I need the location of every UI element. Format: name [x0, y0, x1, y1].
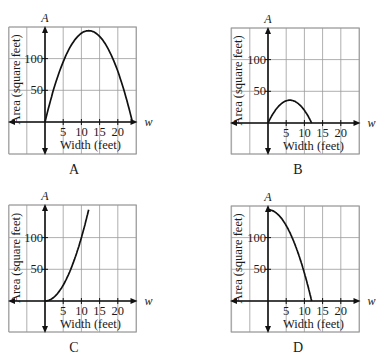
x-variable-label: w — [145, 294, 153, 308]
x-tick-label: 20 — [112, 304, 125, 318]
chart-a: 510152050100AwWidth (feet)Area (square f… — [0, 0, 188, 178]
y-axis-title: Area (square feet) — [231, 213, 245, 303]
y-variable-label: A — [263, 12, 272, 26]
x-tick-label: 5 — [283, 126, 289, 140]
x-tick-label: 15 — [316, 304, 329, 318]
y-tick-label: 50 — [254, 262, 267, 276]
caption-c: C — [54, 340, 94, 355]
y-axis-title: Area (square feet) — [9, 34, 23, 124]
x-tick-label: 5 — [283, 304, 289, 318]
chart-d: 510152050100AwWidth (feet)Area (square f… — [188, 178, 376, 355]
data-curve — [268, 210, 312, 301]
y-variable-label: A — [40, 11, 49, 25]
caption-a: A — [54, 162, 94, 178]
x-tick-label: 20 — [112, 125, 125, 139]
x-variable-label: w — [145, 115, 153, 129]
chart-b: 510152050100AwWidth (feet)Area (square f… — [188, 0, 376, 178]
chart-panel-b: 510152050100AwWidth (feet)Area (square f… — [188, 0, 376, 178]
caption-b: B — [278, 162, 318, 178]
data-curve — [45, 31, 132, 122]
x-tick-label: 15 — [316, 126, 329, 140]
y-axis-title: Area (square feet) — [9, 213, 23, 303]
x-tick-label: 10 — [75, 304, 88, 318]
x-axis-title: Width (feet) — [283, 139, 344, 153]
x-tick-label: 20 — [335, 304, 348, 318]
x-variable-label: w — [368, 116, 376, 130]
y-tick-label: 50 — [254, 84, 267, 98]
chart-panel-d: 510152050100AwWidth (feet)Area (square f… — [188, 178, 376, 355]
x-axis-title: Width (feet) — [60, 138, 121, 152]
x-tick-label: 5 — [60, 125, 66, 139]
y-variable-label: A — [263, 190, 272, 204]
caption-d: D — [278, 340, 318, 355]
x-variable-label: w — [368, 294, 376, 308]
chart-c: 510152050100AwWidth (feet)Area (square f… — [0, 178, 188, 355]
x-tick-label: 15 — [93, 125, 106, 139]
chart-panel-a: 510152050100AwWidth (feet)Area (square f… — [0, 0, 188, 178]
data-curve — [268, 100, 312, 123]
y-tick-label: 100 — [247, 231, 266, 245]
data-curve — [45, 210, 89, 301]
x-tick-label: 10 — [298, 304, 311, 318]
x-tick-label: 20 — [335, 126, 348, 140]
y-variable-label: A — [40, 189, 49, 203]
x-tick-label: 15 — [93, 304, 106, 318]
y-axis-title: Area (square feet) — [231, 35, 245, 125]
x-axis-title: Width (feet) — [283, 317, 344, 331]
chart-panel-c: 510152050100AwWidth (feet)Area (square f… — [0, 178, 188, 355]
y-tick-label: 100 — [247, 53, 266, 67]
x-tick-label: 10 — [75, 125, 88, 139]
y-tick-label: 100 — [24, 52, 43, 66]
x-axis-title: Width (feet) — [60, 317, 121, 331]
y-tick-label: 50 — [31, 83, 44, 97]
x-tick-label: 10 — [298, 126, 311, 140]
x-tick-label: 5 — [60, 304, 66, 318]
y-tick-label: 50 — [31, 262, 44, 276]
y-tick-label: 100 — [24, 231, 43, 245]
